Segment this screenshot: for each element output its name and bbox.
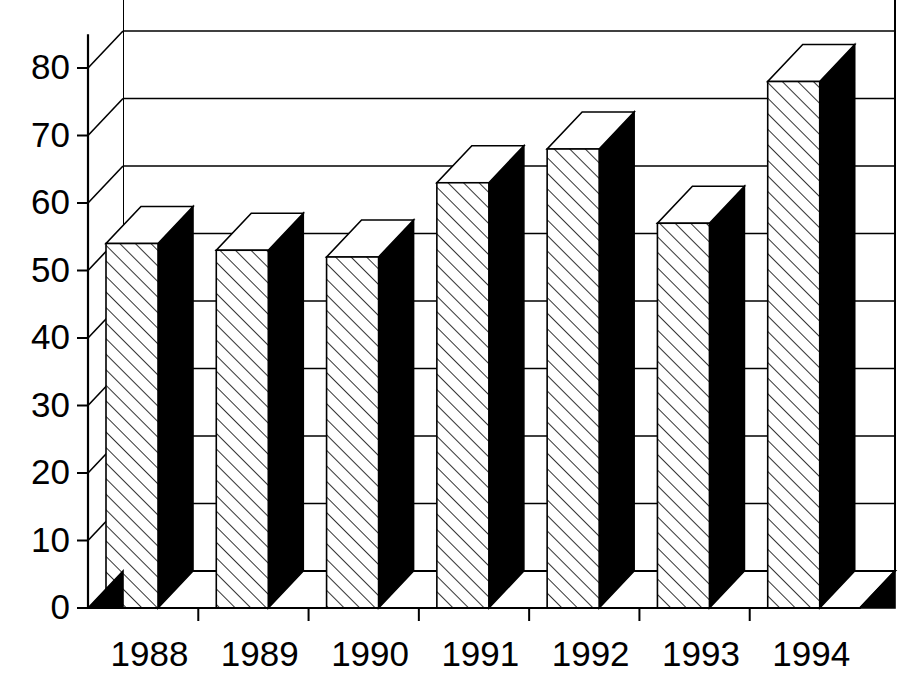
y-tick-label: 80: [0, 49, 70, 84]
y-tick-label: 40: [0, 319, 70, 354]
bar-1993: [657, 186, 744, 608]
bar-1990: [327, 220, 414, 608]
bar-side-face: [268, 213, 303, 608]
x-tick-label: 1993: [641, 636, 761, 671]
bar-side-face: [709, 186, 744, 608]
y-tick-label: 70: [0, 117, 70, 152]
bar-front-face: [327, 257, 379, 608]
bar-chart: 01020304050607080 1988198919901991199219…: [0, 0, 905, 685]
y-tick-label: 0: [0, 589, 70, 624]
bar-side-face: [489, 146, 524, 608]
x-tick-label: 1990: [310, 636, 430, 671]
bar-front-face: [216, 250, 268, 608]
bar-front-face: [768, 82, 820, 609]
x-tick-label: 1994: [751, 636, 871, 671]
y-tick-label: 50: [0, 252, 70, 287]
bar-side-face: [820, 45, 855, 609]
y-tick-label: 30: [0, 387, 70, 422]
bar-side-face: [379, 220, 414, 608]
bar-front-face: [657, 223, 709, 608]
bar-1992: [547, 112, 634, 608]
y-tick-label: 20: [0, 454, 70, 489]
bar-1989: [216, 213, 303, 608]
x-tick-label: 1988: [90, 636, 210, 671]
bar-front-face: [437, 183, 489, 608]
chart-canvas: [0, 0, 905, 685]
y-tick-label: 60: [0, 184, 70, 219]
y-tick-label: 10: [0, 522, 70, 557]
bar-front-face: [106, 244, 158, 609]
bar-side-face: [599, 112, 634, 608]
bar-front-face: [547, 149, 599, 608]
bar-1988: [106, 207, 193, 609]
bar-1994: [768, 45, 855, 609]
x-tick-label: 1989: [200, 636, 320, 671]
bar-side-face: [158, 207, 193, 609]
bar-1991: [437, 146, 524, 608]
x-tick-label: 1992: [531, 636, 651, 671]
x-tick-label: 1991: [420, 636, 540, 671]
